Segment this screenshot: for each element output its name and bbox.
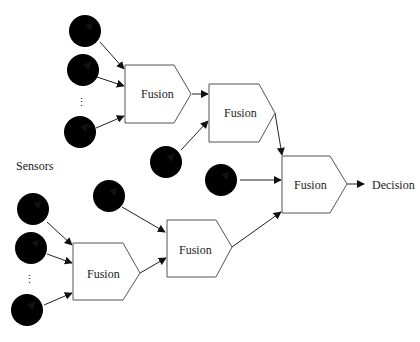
fusion-diagram: Fusion Fusion Fusion Fusion Fusion Senso… <box>0 0 420 342</box>
edge-sensor7-fusion-d <box>47 254 72 263</box>
fusion-node-d: Fusion <box>73 243 140 300</box>
gauge-dial-icon <box>69 15 101 47</box>
ellipsis-bottom: ⋮ <box>24 273 35 285</box>
decision-label: Decision <box>372 178 415 192</box>
edge-sensor9-fusion-e <box>122 207 165 232</box>
sensor-6 <box>17 193 49 225</box>
fusion-node-c: Fusion <box>282 156 347 213</box>
gauge-dial-icon <box>205 164 237 196</box>
sensor-3 <box>64 116 96 148</box>
sensor-7 <box>15 232 47 264</box>
fusion-node-b: Fusion <box>209 84 275 142</box>
gauge-dial-icon <box>15 232 47 264</box>
gauge-dial-icon <box>67 54 99 86</box>
fusion-node-label: Fusion <box>179 243 212 257</box>
gauge-dial-icon <box>11 294 43 326</box>
sensor-9 <box>93 180 125 212</box>
edge-sensor8-fusion-d <box>44 293 72 305</box>
edge-sensor4-fusion-b <box>181 121 208 150</box>
gauge-dial-icon <box>17 193 49 225</box>
edge-fusion-e-fusion-c <box>232 212 281 247</box>
sensor-4 <box>150 146 182 178</box>
edge-sensor1-fusion-a <box>100 42 124 69</box>
sensor-8 <box>11 294 43 326</box>
gauge-dial-icon <box>93 180 125 212</box>
fusion-node-label: Fusion <box>294 178 327 192</box>
edge-fusion-d-fusion-e <box>140 258 166 273</box>
sensors-label: Sensors <box>16 159 54 173</box>
edge-sensor6-fusion-d <box>47 222 72 245</box>
gauge-dial-icon <box>64 116 96 148</box>
fusion-node-a: Fusion <box>125 65 191 123</box>
fusion-node-e: Fusion <box>167 220 232 277</box>
edge-sensor2-fusion-a <box>97 77 124 86</box>
fusion-node-label: Fusion <box>141 87 174 101</box>
fusion-node-label: Fusion <box>87 267 120 281</box>
fusion-node-label: Fusion <box>224 106 257 120</box>
sensor-5 <box>205 164 237 196</box>
ellipsis-top: ⋮ <box>76 96 87 108</box>
edge-fusion-b-fusion-c <box>275 113 282 155</box>
sensor-1 <box>69 15 101 47</box>
edge-sensor3-fusion-a <box>96 116 124 128</box>
gauge-dial-icon <box>150 146 182 178</box>
sensor-2 <box>67 54 99 86</box>
